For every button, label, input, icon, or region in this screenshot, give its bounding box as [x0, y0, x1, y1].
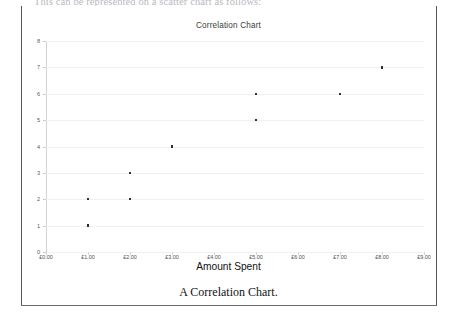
- chart-title: Correlation Chart: [0, 21, 457, 30]
- figure-bottom-rule: [21, 305, 437, 306]
- y-tick-label: 3: [18, 170, 40, 176]
- data-point: [87, 224, 89, 226]
- y-tick-label: 5: [18, 117, 40, 123]
- data-point: [255, 119, 257, 121]
- gridline-y: [46, 120, 424, 121]
- y-tick-label: 6: [18, 91, 40, 97]
- correlation-chart: Correlation Chart Number in Party Amount…: [0, 0, 457, 278]
- data-point: [87, 198, 89, 200]
- gridline-y: [46, 94, 424, 95]
- data-point: [171, 145, 173, 147]
- x-axis-title: Amount Spent: [0, 261, 457, 272]
- y-tick-label: 7: [18, 64, 40, 70]
- y-tick-mark: [43, 67, 46, 68]
- data-point: [129, 198, 131, 200]
- gridline-y: [46, 147, 424, 148]
- x-tick-mark: [214, 252, 215, 255]
- data-point: [255, 93, 257, 95]
- y-tick-label: 4: [18, 144, 40, 150]
- y-tick-mark: [43, 226, 46, 227]
- gridline-y: [46, 252, 424, 253]
- y-tick-mark: [43, 41, 46, 42]
- x-tick-mark: [46, 252, 47, 255]
- gridline-y: [46, 67, 424, 68]
- x-tick-mark: [340, 252, 341, 255]
- y-tick-mark: [43, 94, 46, 95]
- y-tick-label: 2: [18, 196, 40, 202]
- plot-area: [46, 41, 424, 252]
- data-point: [381, 66, 383, 68]
- x-tick-mark: [130, 252, 131, 255]
- x-tick-mark: [424, 252, 425, 255]
- y-tick-label: 1: [18, 223, 40, 229]
- gridline-y: [46, 226, 424, 227]
- gridline-y: [46, 199, 424, 200]
- y-tick-mark: [43, 199, 46, 200]
- y-tick-mark: [43, 173, 46, 174]
- figure-caption: A Correlation Chart.: [0, 285, 457, 300]
- x-tick-mark: [298, 252, 299, 255]
- x-tick-mark: [256, 252, 257, 255]
- y-tick-mark: [43, 147, 46, 148]
- x-tick-mark: [88, 252, 89, 255]
- x-tick-mark: [382, 252, 383, 255]
- data-point: [339, 93, 341, 95]
- gridline-y: [46, 173, 424, 174]
- gridline-y: [46, 41, 424, 42]
- x-tick-mark: [172, 252, 173, 255]
- data-point: [129, 172, 131, 174]
- y-tick-mark: [43, 120, 46, 121]
- y-tick-label: 8: [18, 38, 40, 44]
